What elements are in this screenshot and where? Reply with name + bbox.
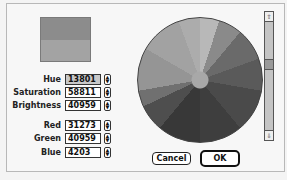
brightness-stepper[interactable]: ▲▼ — [104, 100, 111, 111]
scroll-down-arrow-icon[interactable]: ⇩ — [265, 130, 273, 140]
brightness-label: Brightness — [12, 100, 61, 111]
hue-field[interactable]: 13801 — [65, 74, 101, 85]
red-stepper[interactable]: ▲▼ — [104, 120, 111, 131]
cancel-button[interactable]: Cancel — [152, 152, 191, 165]
brightness-scrollbar[interactable]: ⇧ ⇩ — [264, 11, 274, 141]
blue-stepper[interactable]: ▲▼ — [104, 147, 111, 158]
green-stepper[interactable]: ▲▼ — [104, 133, 111, 144]
original-color-swatch — [41, 40, 90, 62]
color-swatch — [40, 17, 91, 62]
scroll-thumb[interactable] — [265, 59, 273, 70]
hue-label: Hue — [43, 74, 61, 85]
saturation-field[interactable]: 58811 — [65, 87, 101, 98]
scroll-up-arrow-icon[interactable]: ⇧ — [265, 12, 273, 22]
color-wheel[interactable] — [137, 17, 263, 143]
blue-field[interactable]: 4203 — [65, 147, 101, 158]
green-label: Green — [34, 133, 61, 144]
blue-label: Blue — [41, 147, 61, 158]
ok-button[interactable]: OK — [200, 150, 240, 167]
brightness-field[interactable]: 40959 — [65, 100, 101, 111]
green-field[interactable]: 40959 — [65, 133, 101, 144]
saturation-label: Saturation — [13, 87, 61, 98]
red-field[interactable]: 31273 — [65, 120, 101, 131]
saturation-stepper[interactable]: ▲▼ — [104, 87, 111, 98]
hue-stepper[interactable]: ▲▼ — [104, 74, 111, 85]
red-label: Red — [44, 120, 61, 131]
new-color-swatch — [41, 18, 90, 40]
